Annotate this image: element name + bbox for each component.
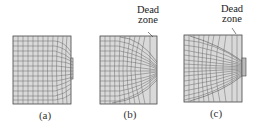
dead-zone-line2: zone: [128, 15, 168, 25]
panel-b-label: (b): [115, 108, 145, 120]
panel-c-dead-zone-label: Dead zone: [212, 4, 252, 24]
dead-zone-line2: zone: [212, 14, 252, 24]
panel-a-label: (a): [30, 109, 60, 121]
panel-b-grid: [100, 32, 157, 104]
panel-b-dead-zone-label: Dead zone: [128, 5, 168, 25]
panel-a-grid: [13, 36, 73, 104]
panel-c-grid: [184, 28, 246, 102]
panel-c-label: (c): [201, 107, 231, 119]
